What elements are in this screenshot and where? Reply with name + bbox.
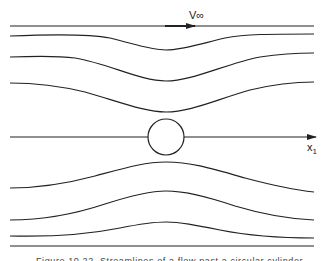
streamline-4 [10, 82, 314, 112]
streamline-2 [10, 34, 314, 50]
figure-caption: Figure 10.22. Streamlines of a flow past… [36, 255, 306, 261]
streamline-6 [10, 191, 314, 220]
streamline-3 [10, 53, 314, 81]
streamline-5 [10, 162, 314, 192]
freestream-velocity-label: V∞ [189, 9, 204, 21]
axis-label-subscript: 1 [313, 147, 317, 156]
streamline-diagram [0, 0, 331, 261]
streamline-7 [10, 222, 314, 238]
cylinder [148, 119, 184, 155]
x1-axis-label: x1 [307, 141, 317, 156]
